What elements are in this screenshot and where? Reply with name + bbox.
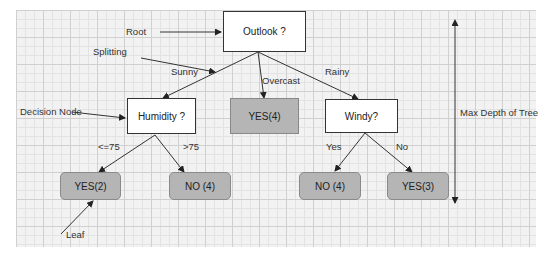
annotation-splitting: Splitting xyxy=(93,46,127,57)
annotation-max-depth: Max Depth of Tree xyxy=(460,107,538,118)
edge-label-gt75: >75 xyxy=(183,141,199,152)
leaf-node-no-4-windy[interactable]: NO (4) xyxy=(299,172,361,200)
leaf-node-yes-3[interactable]: YES(3) xyxy=(387,172,449,200)
edge-label-rainy: Rainy xyxy=(325,66,349,77)
edge-label-overcast: Overcast xyxy=(262,75,300,86)
edge-windy-yes3 xyxy=(365,133,412,172)
edge-label-sunny: Sunny xyxy=(171,66,198,77)
decision-node-humidity[interactable]: Humidity ? xyxy=(127,98,196,134)
leaf-node-overcast[interactable]: YES(4) xyxy=(230,98,299,134)
decision-node-windy[interactable]: Windy? xyxy=(325,99,398,133)
leaf-node-yes-2[interactable]: YES(2) xyxy=(60,172,121,200)
edge-windy-no4 xyxy=(335,133,365,171)
leaf-node-no-4-humidity[interactable]: NO (4) xyxy=(169,172,231,200)
annotation-root: Root xyxy=(126,26,146,37)
edge-label-no: No xyxy=(396,141,408,152)
annotation-leaf: Leaf xyxy=(66,229,85,240)
root-node-outlook[interactable]: Outlook ? xyxy=(223,11,306,52)
edge-label-yes: Yes xyxy=(326,141,342,152)
edge-label-le75: <=75 xyxy=(98,141,120,152)
annotation-decision-node: Decision Node xyxy=(20,106,82,117)
edge-humidity-no4 xyxy=(155,135,184,172)
